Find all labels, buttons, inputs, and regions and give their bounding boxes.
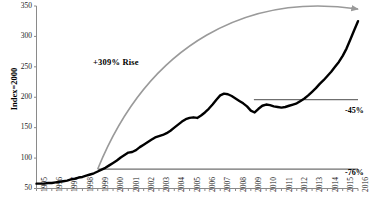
drop-45-annotation-label: -45% [345, 106, 364, 115]
plot-area [0, 0, 375, 224]
axes [34, 6, 358, 191]
chart-container: Index=2000 50100150200250300350 19951996… [0, 0, 375, 224]
rise-arrow-icon [98, 6, 358, 169]
index-series-line [37, 21, 359, 183]
rise-annotation-label: +309% Rise [93, 57, 139, 67]
reference-lines [98, 100, 358, 169]
drop-76-annotation-label: -76% [345, 168, 364, 177]
